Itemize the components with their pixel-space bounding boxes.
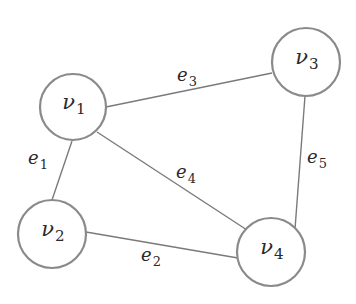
node-subscript: 4 bbox=[274, 246, 284, 264]
edge-e4 bbox=[97, 132, 247, 230]
node-label-v1: ν1 bbox=[62, 92, 85, 117]
graph-diagram: ν1 ν2 ν3 ν4 e1 e2 e3 e4 e5 bbox=[0, 0, 356, 304]
node-symbol: ν bbox=[62, 90, 75, 114]
edge-symbol: e bbox=[307, 146, 318, 167]
edge-symbol: e bbox=[176, 161, 187, 182]
edge-symbol: e bbox=[141, 244, 152, 265]
edge-subscript: 1 bbox=[40, 156, 48, 171]
edge-label-e3: e3 bbox=[177, 66, 197, 88]
edge-e5 bbox=[295, 96, 305, 229]
node-label-v4: ν4 bbox=[260, 237, 283, 262]
edge-subscript: 2 bbox=[153, 253, 161, 268]
node-subscript: 3 bbox=[309, 56, 319, 74]
node-label-v2: ν2 bbox=[41, 219, 64, 244]
node-symbol: ν bbox=[295, 45, 308, 69]
edge-label-e4: e4 bbox=[176, 163, 196, 185]
edge-e2 bbox=[86, 232, 238, 258]
node-symbol: ν bbox=[41, 217, 54, 241]
edge-subscript: 3 bbox=[189, 73, 197, 88]
edge-label-e1: e1 bbox=[28, 149, 48, 171]
node-subscript: 1 bbox=[76, 101, 86, 119]
node-label-v3: ν3 bbox=[295, 47, 318, 72]
edge-e1 bbox=[52, 141, 72, 200]
edge-label-e2: e2 bbox=[141, 246, 161, 268]
edge-symbol: e bbox=[177, 64, 188, 85]
edge-symbol: e bbox=[28, 147, 39, 168]
node-symbol: ν bbox=[260, 235, 273, 259]
edge-label-e5: e5 bbox=[307, 148, 327, 170]
node-subscript: 2 bbox=[55, 228, 65, 246]
edge-subscript: 4 bbox=[188, 170, 196, 185]
edge-subscript: 5 bbox=[319, 155, 327, 170]
